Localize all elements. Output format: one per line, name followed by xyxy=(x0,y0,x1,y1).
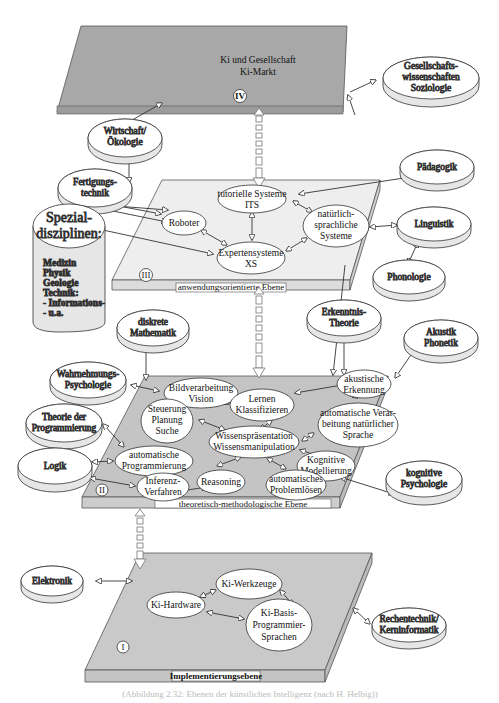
level-iii-label: anwendungsorientierte Ebene xyxy=(178,282,285,292)
svg-text:ITS: ITS xyxy=(245,200,259,210)
svg-text:Vision: Vision xyxy=(189,394,214,404)
node-ki-hardware[interactable]: Ki-Hardware xyxy=(147,592,205,618)
svg-text:akustische: akustische xyxy=(344,374,384,384)
svg-text:Phonetik: Phonetik xyxy=(424,338,458,348)
svg-text:technik: technik xyxy=(81,188,109,198)
svg-text:disziplinen:: disziplinen: xyxy=(36,226,101,241)
svg-text:Reasoning: Reasoning xyxy=(201,477,241,487)
svg-text:Lernen: Lernen xyxy=(249,394,276,404)
svg-text:Rechentechnik/: Rechentechnik/ xyxy=(379,614,438,624)
svg-text:automatische Verar-: automatische Verar- xyxy=(320,408,396,418)
node-ki-basis-programmiersprachen[interactable]: Ki-Basis- Programmier- Sprachen xyxy=(246,599,312,651)
node-tutorielle-systeme[interactable]: tutorielle Systeme ITS xyxy=(218,185,287,213)
level-iv-title-2: Ki-Markt xyxy=(240,67,276,77)
svg-text:Psychologie: Psychologie xyxy=(65,380,111,390)
svg-text:Programmierung: Programmierung xyxy=(122,461,187,471)
svg-text:Wahrnehmungs-: Wahrnehmungs- xyxy=(57,369,120,379)
node-kognitive-psychologie[interactable]: kognitive Psychologie xyxy=(386,461,462,505)
node-inferenzverfahren[interactable]: Inferenz- Verfahren xyxy=(137,473,189,501)
node-erkenntnistheorie[interactable]: Erkenntnis- Theorie xyxy=(307,300,381,343)
svg-text:Pädagogik: Pädagogik xyxy=(417,162,457,172)
svg-text:Linguistik: Linguistik xyxy=(414,219,453,229)
svg-text:kognitive: kognitive xyxy=(406,468,442,478)
level-iv-plane: Ki und Gesellschaft Ki-Markt IV xyxy=(57,26,347,114)
node-steuerung-planung-suche[interactable]: Steuerung Planung Suche xyxy=(141,399,193,443)
node-wahrnehmungspsychologie[interactable]: Wahrnehmungs- Psychologie xyxy=(50,362,126,405)
svg-text:Ki-Basis-: Ki-Basis- xyxy=(261,608,297,618)
node-wirtschaft-oekologie[interactable]: Wirtschaft/ Ökologie xyxy=(88,119,162,164)
node-spezialdisziplinen[interactable]: Spezial- disziplinen: Medizin Physik Geo… xyxy=(33,204,105,332)
svg-text:Wirtschaft/: Wirtschaft/ xyxy=(104,126,147,136)
svg-text:- Informations-: - Informations- xyxy=(43,298,105,308)
svg-text:Soziologie: Soziologie xyxy=(411,83,452,93)
node-gesellschaftswissenschaften[interactable]: Gesellschafts- wissenschaften Soziologie xyxy=(383,57,479,107)
level-iii-numeral: III xyxy=(142,270,151,280)
svg-text:Psychologie: Psychologie xyxy=(401,479,447,489)
node-natuerlichsprachliche-systeme[interactable]: natürlich- sprachliche Systeme xyxy=(303,205,369,247)
node-akustische-erkennung[interactable]: akustische Erkennung xyxy=(337,370,391,398)
svg-text:Erkenntnis-: Erkenntnis- xyxy=(322,307,366,317)
svg-text:Wissensmanipulation: Wissensmanipulation xyxy=(213,442,295,452)
svg-text:Sprachen: Sprachen xyxy=(261,632,297,642)
node-automatische-programmierung[interactable]: automatische Programmierung xyxy=(115,446,193,476)
svg-text:Technik:: Technik: xyxy=(43,288,79,298)
svg-text:Geologie: Geologie xyxy=(43,278,78,288)
level-iv-title-1: Ki und Gesellschaft xyxy=(220,55,296,65)
svg-text:Steuerung: Steuerung xyxy=(148,404,187,414)
level-iv-numeral: IV xyxy=(235,91,246,101)
svg-text:Ki-Werkzeuge: Ki-Werkzeuge xyxy=(221,579,276,589)
svg-text:tutorielle Systeme: tutorielle Systeme xyxy=(218,189,287,199)
node-wissensrepraesentation[interactable]: Wissenspräsentation Wissensmanipulation xyxy=(209,426,299,458)
svg-text:Theorie der: Theorie der xyxy=(42,412,87,422)
node-lernen-klassifizieren[interactable]: Lernen Klassifizieren xyxy=(230,389,294,421)
node-logik[interactable]: Logik xyxy=(18,448,92,492)
node-paedagogik[interactable]: Pädagogik xyxy=(400,150,474,191)
svg-text:Suche: Suche xyxy=(155,426,178,436)
node-reasoning[interactable]: Reasoning xyxy=(197,470,245,494)
svg-text:Physik: Physik xyxy=(43,268,71,278)
svg-text:natürlich-: natürlich- xyxy=(318,209,355,219)
svg-text:Ökologie: Ökologie xyxy=(107,136,142,147)
node-linguistik[interactable]: Linguistik xyxy=(397,207,471,248)
node-elektronik[interactable]: Elektronik xyxy=(21,566,83,603)
node-diskrete-mathematik[interactable]: diskrete Mathematik xyxy=(117,310,189,353)
svg-text:Medizin: Medizin xyxy=(43,258,77,268)
svg-text:XS: XS xyxy=(245,259,257,269)
svg-text:Kerninformatik: Kerninformatik xyxy=(379,625,438,635)
level-ii-label: theoretisch-methodologische Ebene xyxy=(179,499,308,509)
level-i-label: Implementierungsebene xyxy=(170,671,263,681)
figure-caption: (Abbildung 2.32: Ebenen der künstlichen … xyxy=(122,689,377,699)
node-rechentechnik[interactable]: Rechentechnik/ Kerninformatik xyxy=(372,608,446,649)
svg-text:Planung: Planung xyxy=(151,415,182,425)
svg-text:Verfahren: Verfahren xyxy=(144,487,182,497)
svg-text:sprachliche: sprachliche xyxy=(314,220,357,230)
svg-text:beitung natürlicher: beitung natürlicher xyxy=(322,419,395,429)
node-roboter[interactable]: Roboter xyxy=(162,211,206,235)
svg-text:Programmierung: Programmierung xyxy=(32,423,97,433)
node-automatisches-problemloesen[interactable]: automatisches Problemlösen xyxy=(266,470,326,500)
node-automatische-sprachverarbeitung[interactable]: automatische Verar- beitung natürlicher … xyxy=(318,403,398,447)
svg-text:Inferenz-: Inferenz- xyxy=(146,476,181,486)
svg-text:Expertensysteme: Expertensysteme xyxy=(219,248,284,258)
svg-text:Bildverarbeitung: Bildverarbeitung xyxy=(169,383,234,393)
svg-text:Roboter: Roboter xyxy=(169,218,200,228)
svg-text:Theorie: Theorie xyxy=(329,318,359,328)
svg-text:Klassifizieren: Klassifizieren xyxy=(236,405,289,415)
node-phonologie[interactable]: Phonologie xyxy=(373,260,445,301)
node-ki-werkzeuge[interactable]: Ki-Werkzeuge xyxy=(216,569,282,599)
svg-text:Fertigungs-: Fertigungs- xyxy=(73,177,117,187)
svg-text:automatisches: automatisches xyxy=(269,474,323,484)
level-i-numeral: I xyxy=(122,642,125,652)
svg-text:- u.a.: - u.a. xyxy=(43,308,63,318)
svg-text:Problemlösen: Problemlösen xyxy=(270,485,322,495)
svg-text:Programmier-: Programmier- xyxy=(252,620,305,630)
node-akustik-phonetik[interactable]: Akustik Phonetik xyxy=(404,320,478,363)
svg-text:Mathematik: Mathematik xyxy=(130,328,176,338)
svg-text:Elektronik: Elektronik xyxy=(32,576,72,586)
node-expertensysteme[interactable]: Expertensysteme XS xyxy=(217,242,285,274)
level-ii-numeral: II xyxy=(99,485,105,495)
svg-text:Erkennung: Erkennung xyxy=(343,385,385,395)
node-theorie-programmierung[interactable]: Theorie der Programmierung xyxy=(26,404,102,449)
svg-text:Logik: Logik xyxy=(44,461,67,471)
svg-text:Ki-Hardware: Ki-Hardware xyxy=(151,600,201,610)
